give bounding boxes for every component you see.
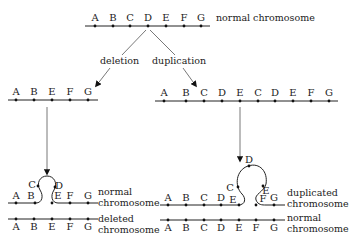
deleted-chromosome-result: A B E F G	[8, 86, 98, 101]
gene-label: D	[218, 87, 226, 98]
gene-label: F	[67, 221, 74, 232]
left-pairing: A B E F G C D normal chromosome A B E F …	[8, 176, 160, 235]
gene-label: B	[182, 192, 189, 203]
gene-label: F	[181, 12, 188, 23]
gene-label: E	[236, 87, 243, 98]
duplicated-caption-line1: duplicated	[287, 187, 338, 198]
gene-label: E	[162, 12, 169, 23]
loop-gene-label: D	[245, 154, 253, 165]
gene-label: B	[30, 221, 37, 232]
gene-label: F	[253, 222, 260, 233]
gene-label: E	[235, 222, 242, 233]
gene-label: B	[109, 12, 116, 23]
normal-caption-line2: chromosome	[98, 197, 160, 208]
gene-label: G	[325, 87, 333, 98]
deleted-caption-line1: deleted	[98, 213, 134, 224]
gene-label: C	[200, 222, 208, 233]
gene-label: B	[182, 222, 189, 233]
loop-gene-label: C	[28, 179, 36, 190]
gene-label: B	[30, 86, 37, 97]
gene-label: A	[90, 12, 99, 23]
gene-label: A	[11, 86, 20, 97]
duplicated-chromosome-result: A B C D E C D E F G	[155, 87, 338, 102]
gene-label: C	[254, 87, 262, 98]
gene-label: A	[159, 87, 168, 98]
gene-label: E	[48, 221, 55, 232]
right-pairing: A B C D E F G C D E duplicated chromosom…	[160, 154, 349, 234]
gene-label: F	[67, 86, 74, 97]
gene-label: C	[200, 192, 208, 203]
gene-label: B	[182, 87, 189, 98]
gene-label: C	[200, 87, 208, 98]
gene-label: B	[27, 190, 34, 201]
gene-label: E	[54, 190, 61, 201]
gene-label: D	[144, 12, 152, 23]
gene-label: D	[217, 222, 225, 233]
gene-label: G	[197, 12, 205, 23]
gene-label: D	[217, 192, 225, 203]
normal-caption-line1: normal	[287, 212, 321, 223]
gene-label: G	[270, 192, 278, 203]
normal-caption-line1: normal	[98, 186, 132, 197]
duplication-label: duplication	[152, 55, 206, 66]
duplicated-caption-line2: chromosome	[287, 198, 349, 209]
gene-label: G	[84, 190, 92, 201]
gene-label: E	[48, 86, 55, 97]
gene-label: A	[163, 192, 172, 203]
loop-gene-label: C	[226, 182, 234, 193]
branch-arrows: deletion duplication	[96, 30, 206, 86]
deleted-caption-line2: chromosome	[98, 224, 160, 235]
gene-label: G	[84, 86, 92, 97]
chromosome-diagram: A B C D E F G normal chromosome deletion…	[0, 0, 353, 238]
top-chromosome-caption: normal chromosome	[216, 12, 315, 23]
gene-label: E	[289, 87, 296, 98]
gene-label: F	[67, 190, 74, 201]
gene-label: A	[11, 190, 20, 201]
normal-caption-line2: chromosome	[287, 223, 349, 234]
gene-label: A	[11, 221, 20, 232]
gene-label: F	[308, 87, 315, 98]
gene-label: C	[126, 12, 134, 23]
deletion-label: deletion	[100, 55, 139, 66]
top-normal-chromosome: A B C D E F G normal chromosome	[85, 12, 315, 27]
loop-gene-label: D	[55, 180, 63, 191]
gene-label: D	[271, 87, 279, 98]
gene-label: A	[163, 222, 172, 233]
gene-label: E	[229, 194, 236, 205]
gene-label: G	[270, 222, 278, 233]
gene-label: G	[84, 221, 92, 232]
loop-gene-label: E	[262, 185, 269, 196]
